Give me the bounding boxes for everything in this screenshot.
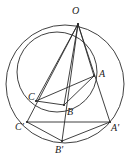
segment-layer [27,24,110,141]
point-label-C-prime: C' [15,122,24,132]
geometry-diagram: OABCA'B'C' [0,0,130,165]
point-label-O: O [72,6,79,16]
segment-O-Bp [62,24,78,141]
point-label-A-prime: A' [111,123,119,133]
point-label-B-prime: B' [55,145,63,155]
vertex-C-prime [26,121,28,123]
point-label-A: A [99,69,105,79]
vertex-B-prime [61,140,63,142]
vertex-A [93,75,95,77]
vertex-O [77,23,79,25]
vertex-B [63,104,65,106]
segment-O-Ap [78,24,110,122]
point-label-B: B [67,107,73,117]
segment-Ap-Bp [62,122,110,141]
vertex-C [35,100,37,102]
segment-Bp-Cp [27,122,62,141]
point-label-C: C [28,92,35,102]
figure-canvas [0,0,130,165]
segment-B-C [36,101,64,105]
